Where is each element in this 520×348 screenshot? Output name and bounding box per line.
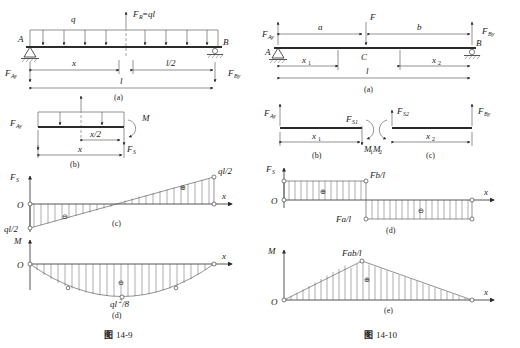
distributed-load-arrows	[43, 30, 207, 45]
dimension-x1: x 1	[280, 50, 338, 70]
label-shear-value-negative: Fa/l	[335, 214, 351, 224]
subfigure-c-right-segment: F By F S2 M 2 x 2 (c)	[372, 104, 491, 160]
figure-14-9: q F R =ql A B	[0, 0, 260, 348]
roller-support-b-right	[464, 49, 480, 59]
shear-sign-negative: ⊖	[62, 213, 68, 221]
dimension-half-l: l/2	[133, 58, 213, 74]
subfigure-b-free-body: F Ay F S M x/2 x (b)	[9, 96, 150, 169]
label-moment-axis-x: x	[221, 251, 226, 261]
subfigure-label-a-right: (a)	[364, 85, 373, 94]
label-moment-value-max-right: Fab/l	[341, 248, 362, 258]
subfigure-label-d: (d)	[112, 311, 122, 320]
dimension-x-b: x	[38, 144, 124, 158]
label-dim-x1-sub: 1	[308, 60, 311, 66]
label-resultant: F	[132, 9, 139, 19]
label-moment-axis-y-right: M	[267, 246, 276, 256]
label-shear-sub-c-right: S2	[403, 111, 409, 117]
figure-caption-14-10: 图 14-10	[364, 330, 397, 340]
subfigure-c-shear-diagram: F S x O	[4, 166, 233, 234]
label-dim-a: a	[318, 22, 323, 32]
label-dim-x2-sub-c: 2	[432, 136, 435, 142]
label-shear-sub-b: S	[133, 149, 136, 155]
subfigure-label-e-right: (e)	[384, 306, 393, 315]
subfigure-label-d-right: (d)	[386, 226, 396, 235]
label-reaction-a-sub: Ay	[10, 73, 17, 79]
label-dim-x1-b: x	[311, 131, 316, 141]
label-dim-x2-sub: 2	[438, 60, 441, 66]
shear-sign-positive-right: ⊕	[320, 188, 326, 196]
dimension-x2-c: x 2	[394, 131, 472, 146]
label-dim-total-right: l	[366, 66, 369, 76]
dimension-b: b	[370, 22, 470, 34]
figure-14-10: F Ay F By F A B C	[260, 0, 520, 348]
label-dim-x2: x	[431, 55, 436, 65]
label-shear-value-bottom: ql/2	[4, 224, 19, 234]
subfigure-e-moment-diagram-right: M x O	[267, 246, 494, 315]
label-shear-origin-right: O	[271, 196, 278, 206]
label-resultant-eq: =ql	[142, 9, 156, 19]
subfigure-d-shear-diagram-right: F S x O ⊕ Fb/l	[265, 164, 494, 235]
moment-arc-b-right	[366, 120, 374, 139]
label-reaction-a-b: F	[9, 118, 16, 128]
label-reaction-b-sub-c-right: By	[484, 111, 491, 117]
label-moment-max: ql 2 /8	[110, 298, 130, 309]
shear-sign-positive: ⊕	[180, 184, 186, 192]
dimension-l: l	[32, 76, 213, 88]
label-moment-b: M	[141, 113, 150, 123]
label-dim-x1: x	[301, 55, 306, 65]
label-dim-total: l	[120, 76, 123, 86]
label-shear-axis-y-sub-right: S	[272, 169, 275, 175]
label-shear-axis-y-sub: S	[16, 177, 19, 183]
label-reaction-b-sub-right: By	[488, 31, 495, 37]
label-shear-b-right: F	[345, 114, 352, 124]
dimension-x: x	[32, 58, 119, 74]
moment-sign-positive-right: ⊕	[364, 276, 370, 284]
caption-cjk-right: 图	[364, 330, 373, 340]
dimension-l-right: l	[280, 66, 470, 78]
label-shear-b: F	[126, 144, 133, 154]
label-moment-origin-right: O	[271, 297, 278, 307]
subfigure-label-c: (c)	[112, 219, 121, 228]
label-load-intensity: q	[71, 14, 76, 24]
caption-number-left: 14-9	[116, 330, 133, 340]
shear-sign-negative-right: ⊖	[418, 207, 424, 215]
label-dim-x2-c: x	[425, 131, 430, 141]
subfigure-b-left-segment: F Ay F S1 M 1 x 1 (b)	[263, 104, 374, 160]
label-reaction-b-c-right: F	[477, 106, 484, 116]
subfigure-label-b-right: (b)	[312, 151, 322, 160]
label-reaction-b-sub: By	[234, 73, 241, 79]
dimension-x1-b: x 1	[280, 131, 360, 146]
label-moment-axis-x-right: x	[483, 287, 488, 297]
subfigure-a-point-load-beam: F Ay F By F A B C	[261, 12, 495, 94]
label-moment-axis-y: M	[13, 236, 22, 246]
label-shear-axis-x-right: x	[483, 187, 488, 197]
label-reaction-a-right: F	[261, 29, 268, 39]
label-reaction-a: F	[4, 68, 11, 78]
label-moment-origin: O	[17, 260, 24, 270]
label-moment-sub-c-right: 2	[379, 149, 382, 155]
dimension-a: a	[280, 22, 362, 34]
label-reaction-a-sub-b-right: Ay	[269, 113, 276, 119]
label-reaction-b-right: F	[481, 26, 488, 36]
pin-support-a-right	[269, 48, 287, 63]
label-dim-x1-sub-b: 1	[318, 136, 321, 142]
subfigure-label-b: (b)	[70, 160, 80, 169]
caption-cjk-left: 图	[104, 330, 113, 340]
label-dim-half: l/2	[166, 58, 176, 68]
label-dim-half-x: x/2	[89, 129, 101, 139]
label-dim-b: b	[417, 22, 422, 32]
label-point-b-right: B	[476, 38, 482, 48]
label-point-c: C	[361, 52, 368, 62]
label-dim-x-b: x	[77, 144, 82, 154]
label-shear-axis-x: x	[221, 191, 226, 201]
distributed-load-arrows-b	[60, 112, 102, 125]
moment-hatching-right	[291, 263, 465, 301]
shear-slope-line	[30, 177, 214, 228]
moment-sign-negative: ⊖	[118, 279, 124, 287]
moment-max-base: ql	[110, 299, 118, 309]
caption-number-right: 14-10	[376, 330, 397, 340]
figure-caption-14-9: 图 14-9	[104, 330, 133, 340]
dimension-half-x: x/2	[83, 129, 120, 140]
label-shear-axis-y: F	[9, 172, 16, 182]
moment-arc-b	[128, 120, 136, 137]
